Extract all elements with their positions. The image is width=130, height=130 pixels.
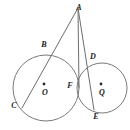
point-label-c: C — [11, 102, 16, 110]
secant-line-abc — [22, 8, 78, 108]
point-label-d: D — [90, 53, 96, 61]
point-label-a: A — [76, 4, 81, 12]
center-dot-o-icon — [43, 83, 46, 86]
geometry-figure: A B C D E F O Q — [0, 0, 130, 130]
figure-canvas — [0, 0, 130, 130]
center-dot-q-icon — [100, 83, 103, 86]
point-label-o: O — [42, 89, 48, 97]
point-label-q: Q — [99, 89, 105, 97]
point-label-e: E — [93, 113, 98, 121]
tangent-line-af — [78, 8, 79, 88]
point-label-f: F — [67, 82, 72, 90]
point-label-b: B — [41, 41, 46, 49]
